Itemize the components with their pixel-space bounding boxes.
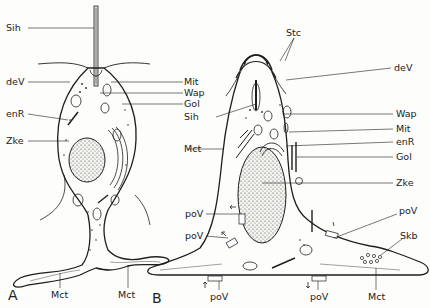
label-a-mit: Mit <box>184 77 199 87</box>
panel-b-leaders <box>188 38 402 290</box>
label-a-mct-right: Mct <box>118 290 135 300</box>
label-b-mct: Mct <box>184 144 201 154</box>
label-b-mit: Mit <box>396 124 411 134</box>
label-b-dev: deV <box>394 63 412 73</box>
label-b-skb: Skb <box>400 231 418 241</box>
label-b-pov-bottom-right: poV <box>310 292 328 302</box>
label-a-wap: Wap <box>184 88 205 98</box>
label-a-gol: Gol <box>184 99 200 109</box>
label-b-pov-bottom-left: poV <box>210 292 228 302</box>
diagram-drawing <box>0 0 430 308</box>
label-b-zke: Zke <box>396 178 414 188</box>
label-b-sih: Sih <box>184 112 199 122</box>
label-b-pov-left-lower: poV <box>185 231 203 241</box>
label-a-sih: Sih <box>6 23 21 33</box>
cell-diagram-figure: Sih deV enR Zke Mit Wap Gol Mct Mct A St… <box>0 0 430 308</box>
panel-label-b: B <box>152 291 162 305</box>
label-a-mct-left: Mct <box>51 290 68 300</box>
label-b-gol: Gol <box>396 152 412 162</box>
panel-a-cell <box>14 6 169 287</box>
label-b-wap: Wap <box>396 109 417 119</box>
label-a-enr: enR <box>6 109 24 119</box>
panel-label-a: A <box>8 288 18 302</box>
label-b-pov-right: poV <box>399 206 417 216</box>
label-b-mct-bottom: Mct <box>368 292 385 302</box>
label-b-pov-left-upper: poV <box>185 209 203 219</box>
label-b-enr: enR <box>396 137 414 147</box>
label-a-zke: Zke <box>6 136 24 146</box>
label-a-dev: deV <box>6 77 24 87</box>
label-b-stc: Stc <box>286 28 301 38</box>
